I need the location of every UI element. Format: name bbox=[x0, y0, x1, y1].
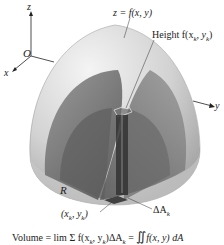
z-axis-label: z bbox=[27, 2, 31, 12]
double-integral-symbol: ∬ bbox=[136, 229, 146, 244]
point-label: (xk, yk) bbox=[61, 209, 88, 222]
x-axis-label: x bbox=[4, 68, 8, 78]
region-label: R bbox=[60, 185, 67, 196]
volume-formula: Volume = lim Σ f(xk, yk)ΔAk = ∬f(x, y) d… bbox=[12, 229, 183, 245]
origin-label: O bbox=[23, 48, 31, 59]
y-axis-label: y bbox=[215, 101, 219, 111]
height-label: Height f(xk, yk) bbox=[152, 30, 212, 43]
surface-label: z = f(x, y) bbox=[113, 8, 152, 18]
area-label: ΔAk bbox=[153, 205, 170, 218]
